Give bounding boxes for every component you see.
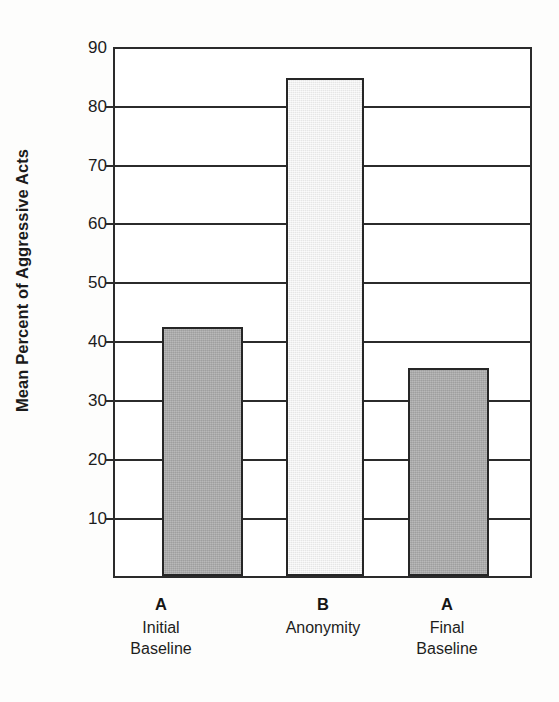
y-tick-label-30: 30 — [61, 392, 107, 409]
tick-mark-50 — [106, 282, 113, 284]
y-tick-label-10: 10 — [61, 510, 107, 527]
y-tick-label-80: 80 — [61, 98, 107, 115]
y-tick-label-90: 90 — [61, 39, 107, 56]
x-label-condition-initial-line2: Baseline — [120, 639, 202, 659]
x-label-condition-final-line1: Final — [406, 618, 488, 638]
y-tick-label-70: 70 — [61, 157, 107, 174]
y-tick-label-50: 50 — [61, 274, 107, 291]
x-axis-label-anonymity: B Anonymity — [258, 594, 388, 639]
bar-initial-baseline — [162, 327, 243, 576]
bar-final-baseline — [408, 368, 489, 576]
bar-chart-figure: Mean Percent of Aggressive Acts 90 80 70… — [0, 0, 559, 702]
tick-mark-70 — [106, 165, 113, 167]
tick-mark-30 — [106, 400, 113, 402]
y-axis-title: Mean Percent of Aggressive Acts — [0, 0, 46, 560]
tick-mark-60 — [106, 223, 113, 225]
x-label-code-a-final: A — [406, 594, 488, 615]
x-label-code-b-anonymity: B — [258, 594, 388, 615]
x-label-condition-initial-line1: Initial — [120, 618, 202, 638]
x-axis-label-initial-baseline: A Initial Baseline — [120, 594, 202, 659]
y-axis-title-text: Mean Percent of Aggressive Acts — [14, 148, 33, 411]
y-tick-label-20: 20 — [61, 451, 107, 468]
x-label-code-a-initial: A — [120, 594, 202, 615]
x-axis-label-final-baseline: A Final Baseline — [406, 594, 488, 659]
tick-mark-10 — [106, 518, 113, 520]
y-tick-label-60: 60 — [61, 215, 107, 232]
x-label-condition-anonymity: Anonymity — [258, 618, 388, 638]
tick-mark-20 — [106, 459, 113, 461]
bar-anonymity — [286, 78, 364, 576]
y-tick-label-40: 40 — [61, 333, 107, 350]
y-axis-tick-labels: 90 80 70 60 50 40 30 20 10 — [57, 0, 107, 702]
tick-mark-80 — [106, 106, 113, 108]
plot-area — [113, 47, 532, 578]
tick-mark-40 — [106, 341, 113, 343]
x-label-condition-final-line2: Baseline — [406, 639, 488, 659]
